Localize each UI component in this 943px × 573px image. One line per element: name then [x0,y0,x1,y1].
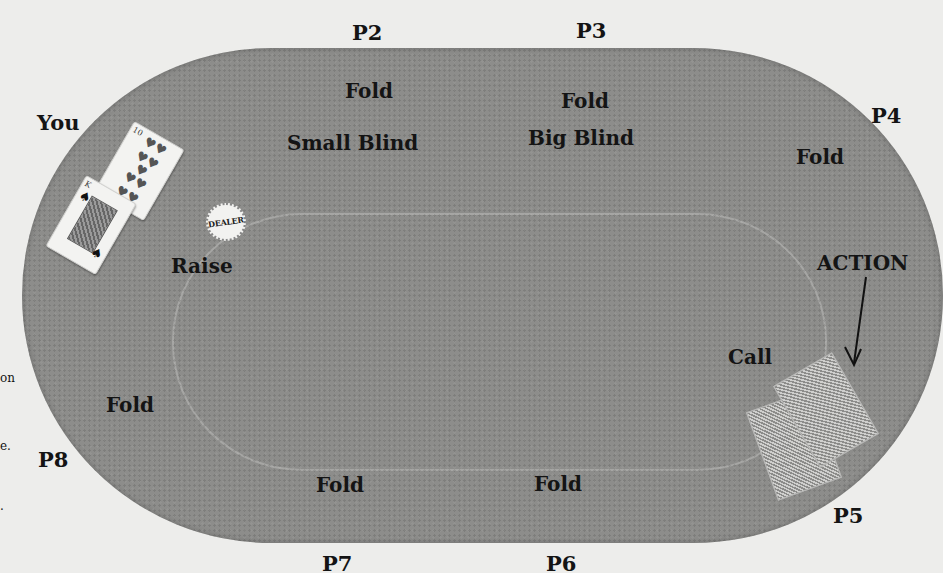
action-p2: Fold [345,81,393,101]
role-small-blind: Small Blind [287,133,418,153]
action-arrow-icon [840,275,870,370]
dealer-button-label: DEALER [208,215,245,230]
action-p3: Fold [561,91,609,111]
action-p7: Fold [316,475,364,495]
king-face-image [67,195,118,253]
card-rank: K [83,179,93,190]
seat-label-p5: P5 [833,505,863,526]
seat-label-p8: P8 [38,449,68,470]
action-p6: Fold [534,474,582,494]
seat-label-p6: P6 [546,553,576,573]
action-p8: Fold [106,395,154,415]
dealer-button: DEALER [206,203,246,241]
seat-label-p7: P7 [322,553,352,573]
cropped-text-fragment: e. [0,440,11,452]
action-you: Raise [171,256,233,276]
seat-label-you: You [37,112,79,133]
seat-label-p4: P4 [871,105,901,126]
card-rank: 10 [131,125,144,138]
seat-label-p3: P3 [576,20,606,41]
cropped-text-fragment: . [0,500,4,512]
action-marker-label: ACTION [817,253,908,273]
role-big-blind: Big Blind [528,128,634,148]
action-p5: Call [728,347,772,367]
betting-line [172,213,827,471]
cropped-text-fragment: on [0,372,15,384]
seat-label-p2: P2 [352,22,382,43]
action-p4: Fold [796,147,844,167]
